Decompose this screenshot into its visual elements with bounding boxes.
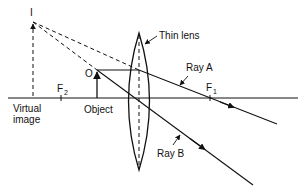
ray-a-label: Ray A [186,62,213,73]
f1-label: F [206,82,212,93]
object-label: Object [84,104,113,115]
ray-a-arrow [220,102,234,108]
image-point-label: I [30,7,33,18]
object-point-label: O [85,68,93,79]
ray-b-virtual-extension [33,22,97,70]
f1-subscript: 1 [213,88,217,95]
ray-a-virtual-extension [33,22,139,70]
virtual-image-label-line2: image [13,114,41,125]
thin-lens-diagram: I O Thin lens Ray A Ray B F 1 F 2 Virtua… [0,0,303,192]
ray-a-leader-line [180,76,188,85]
f2-subscript: 2 [64,89,68,96]
virtual-image-label-line1: Virtual [13,103,41,114]
ray-b-leader-line [173,135,180,145]
lens-leader-line [145,36,157,44]
lens-label: Thin lens [159,30,200,41]
ray-b-label: Ray B [157,148,185,159]
ray-a [97,70,277,124]
f2-label: F [57,83,63,94]
ray-b [97,70,253,185]
ray-b-arrow [190,139,205,150]
